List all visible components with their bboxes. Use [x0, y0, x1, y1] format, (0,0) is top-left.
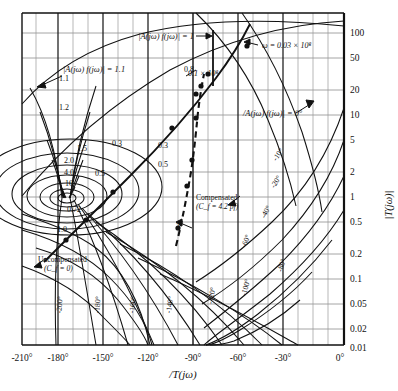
annotation-compensated-line1: Compensated	[196, 193, 238, 202]
annotation-mag-unity: |A(jω) f(jω)| = 1	[138, 32, 194, 41]
data-marker	[193, 91, 198, 96]
annotation-mag-1p1: |A(jω) f(jω)| = 1.1	[63, 65, 125, 74]
phase-label: -200°	[54, 296, 64, 314]
data-marker	[63, 237, 68, 242]
mag-label: 0.5	[158, 160, 168, 169]
data-marker	[110, 189, 115, 194]
nichols-chart-figure: 100 50 20 10 5 2 1 0.5 0.2 0.1 0.05 0.02…	[0, 0, 398, 391]
mag-label: 1.5	[77, 144, 87, 153]
data-marker	[193, 115, 198, 120]
x-tick: -150°	[92, 353, 113, 363]
mag-label: 2	[176, 222, 180, 231]
mag-label: 0.3	[158, 141, 168, 150]
data-marker	[189, 157, 194, 162]
mag-label: 0.8	[184, 65, 194, 74]
x-tick: -180°	[47, 353, 68, 363]
chart-canvas: 100 50 20 10 5 2 1 0.5 0.2 0.1 0.05 0.02…	[0, 0, 398, 391]
y-tick: 0.2	[350, 249, 362, 259]
y-tick: 100	[350, 28, 365, 38]
x-axis-tick-labels: -210° -180° -150° -120° -90° -60° -30° 0…	[11, 353, 344, 363]
phase-label: -160°	[127, 296, 138, 314]
data-marker	[198, 83, 203, 88]
annotation-uncompensated-line2: (C_f = 0)	[44, 264, 73, 273]
y-tick: 5	[350, 135, 355, 145]
y-tick: 10	[350, 110, 360, 120]
x-tick: -60°	[230, 353, 247, 363]
x-tick: 0°	[336, 353, 345, 363]
annotation-phase-zero: /A(jω) f(jω)| = 0°	[242, 109, 303, 118]
y-axis-tick-labels: 100 50 20 10 5 2 1 0.5 0.2 0.1 0.05 0.02…	[350, 28, 367, 353]
x-tick: -30°	[275, 353, 292, 363]
mag-label: 2.0	[64, 156, 74, 165]
y-tick: 0.01	[350, 343, 367, 353]
annotation-compensated-line2: (C_f = 4.2 pf)	[196, 202, 239, 211]
y-tick: 0.05	[350, 299, 367, 309]
data-marker	[169, 125, 174, 130]
y-tick: 0.1	[350, 274, 362, 284]
mag-label: 0.5	[95, 169, 105, 178]
mag-label: 4.0	[64, 168, 74, 177]
annotation-uncompensated-line1: Uncompensated	[38, 255, 87, 264]
x-tick: -120°	[137, 353, 158, 363]
data-marker	[83, 217, 88, 222]
phase-label: -180°	[92, 296, 102, 314]
mag-label: 1.0	[57, 225, 67, 234]
annotation-omega-top: ω = 0.03 × 10⁸	[262, 41, 311, 50]
mag-label: 1.1	[59, 74, 69, 83]
x-axis-title: /T(jω)	[168, 368, 197, 381]
y-tick: 2	[350, 167, 355, 177]
mag-label: 1.2	[59, 103, 69, 112]
x-tick: -90°	[185, 353, 202, 363]
data-marker	[184, 183, 189, 188]
mag-label: 0.72	[67, 205, 81, 214]
mag-label: 10	[65, 179, 73, 188]
y-tick: 50	[350, 53, 360, 63]
y-tick: 20	[350, 85, 360, 95]
y-tick: 0.5	[350, 217, 362, 227]
x-tick: -210°	[11, 353, 32, 363]
y-tick: 0.02	[350, 324, 367, 334]
mag-label: 0.3	[112, 139, 122, 148]
y-tick: 1	[350, 192, 355, 202]
y-axis-title: |T(jω)|	[383, 191, 395, 220]
